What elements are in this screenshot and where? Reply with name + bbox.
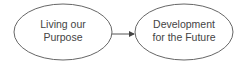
node-label-line2: for the Future: [152, 31, 215, 43]
node-development-for-the-future: Development for the Future: [135, 4, 233, 60]
node-label-line1: Living our: [40, 18, 86, 30]
flow-diagram: Living our Purpose Development for the F…: [0, 0, 244, 63]
node-living-our-purpose: Living our Purpose: [14, 4, 112, 60]
node-label-line1: Development: [153, 18, 215, 30]
node-label-line2: Purpose: [43, 31, 82, 43]
